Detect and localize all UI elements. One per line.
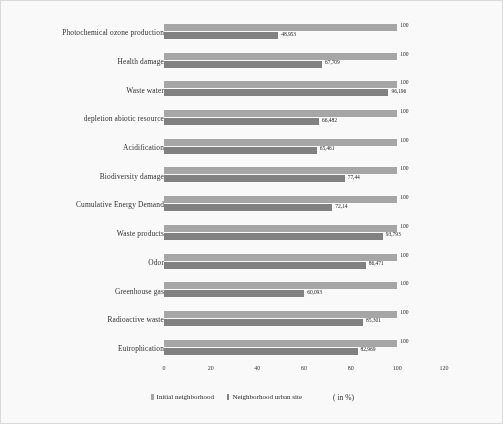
category-label: Radioactive waste xyxy=(4,317,164,324)
category-label: Health damage xyxy=(4,58,164,65)
category-label: Biodiversity damage xyxy=(4,173,164,180)
bar-value-initial-neighborhood: 100 xyxy=(400,138,408,144)
bar-value-initial-neighborhood: 100 xyxy=(400,253,408,259)
x-axis-tick: 60 xyxy=(301,365,307,371)
chart-row: Waste products10093,793 xyxy=(1,220,503,249)
bar-initial-neighborhood xyxy=(164,81,397,88)
bar-value-neighborhood-urban-site: 93,793 xyxy=(386,232,401,238)
legend-label-initial-neighborhood: Initial neighborhood xyxy=(157,393,214,401)
bar-value-neighborhood-urban-site: 60,093 xyxy=(307,290,322,296)
bar-group: 10048,953 xyxy=(164,19,444,48)
chart-row: Acidification10065,461 xyxy=(1,134,503,163)
bar-initial-neighborhood xyxy=(164,110,397,117)
category-label: Greenhouse gas xyxy=(4,288,164,295)
bar-neighborhood-urban-site xyxy=(164,89,388,96)
bar-initial-neighborhood xyxy=(164,167,397,174)
bar-group: 10066,482 xyxy=(164,105,444,134)
bar-group: 10086,471 xyxy=(164,249,444,278)
bar-value-neighborhood-urban-site: 48,953 xyxy=(281,32,296,38)
chart-row: Greenhouse gas10060,093 xyxy=(1,277,503,306)
category-label: Cumulative Energy Demand xyxy=(4,202,164,209)
chart-row: Radioactive waste10085,301 xyxy=(1,306,503,335)
bar-value-initial-neighborhood: 100 xyxy=(400,52,408,58)
legend-swatch-initial-neighborhood xyxy=(151,394,154,400)
bar-initial-neighborhood xyxy=(164,254,397,261)
category-label: Odor xyxy=(4,259,164,266)
legend-item-neighborhood-urban-site: Neighborhood urban site xyxy=(227,393,302,401)
bar-value-neighborhood-urban-site: 65,461 xyxy=(320,146,335,152)
bar-value-neighborhood-urban-site: 72,14 xyxy=(335,204,347,210)
bar-neighborhood-urban-site xyxy=(164,262,366,269)
chart-row: Waste water10096,196 xyxy=(1,76,503,105)
chart-row: Photochemical ozone production10048,953 xyxy=(1,19,503,48)
x-axis-tick: 0 xyxy=(163,365,166,371)
legend-swatch-neighborhood-urban-site xyxy=(227,394,230,400)
bar-initial-neighborhood xyxy=(164,225,397,232)
bar-group: 10060,093 xyxy=(164,277,444,306)
bar-value-neighborhood-urban-site: 96,196 xyxy=(391,89,406,95)
chart-row: Odor10086,471 xyxy=(1,249,503,278)
chart-legend: Initial neighborhood Neighborhood urban … xyxy=(1,389,503,405)
bar-initial-neighborhood xyxy=(164,311,397,318)
bar-group: 10096,196 xyxy=(164,76,444,105)
bar-neighborhood-urban-site xyxy=(164,319,363,326)
legend-label-neighborhood-urban-site: Neighborhood urban site xyxy=(232,393,302,401)
bar-neighborhood-urban-site xyxy=(164,348,358,355)
x-axis-tick: 20 xyxy=(208,365,214,371)
bar-neighborhood-urban-site xyxy=(164,32,278,39)
bar-neighborhood-urban-site xyxy=(164,61,322,68)
bar-initial-neighborhood xyxy=(164,139,397,146)
bar-group: 10065,461 xyxy=(164,134,444,163)
bar-group: 10077,44 xyxy=(164,162,444,191)
bar-value-neighborhood-urban-site: 86,471 xyxy=(369,261,384,267)
category-label: Waste water xyxy=(4,87,164,94)
chart-row: Eutrophication10082,969 xyxy=(1,335,503,364)
bar-group: 10093,793 xyxy=(164,220,444,249)
x-axis-tick: 40 xyxy=(254,365,260,371)
bar-neighborhood-urban-site xyxy=(164,290,304,297)
chart-row: Cumulative Energy Demand10072,14 xyxy=(1,191,503,220)
bar-value-initial-neighborhood: 100 xyxy=(400,166,408,172)
bar-initial-neighborhood xyxy=(164,196,397,203)
bar-neighborhood-urban-site xyxy=(164,118,319,125)
category-label: Photochemical ozone production xyxy=(4,30,164,37)
bar-neighborhood-urban-site xyxy=(164,204,332,211)
bar-value-initial-neighborhood: 100 xyxy=(400,281,408,287)
category-label: depletion abiotic resource xyxy=(4,116,164,123)
bar-group: 10085,301 xyxy=(164,306,444,335)
bar-initial-neighborhood xyxy=(164,53,397,60)
bar-value-initial-neighborhood: 100 xyxy=(400,80,408,86)
bar-group: 10072,14 xyxy=(164,191,444,220)
bar-chart: Photochemical ozone production10048,953H… xyxy=(0,0,503,424)
bar-group: 10067,709 xyxy=(164,48,444,77)
bar-value-initial-neighborhood: 100 xyxy=(400,195,408,201)
bar-value-neighborhood-urban-site: 66,482 xyxy=(322,118,337,124)
unit-note: ( in %) xyxy=(333,393,354,402)
bar-initial-neighborhood xyxy=(164,282,397,289)
category-label: Acidification xyxy=(4,144,164,151)
chart-row: Health damage10067,709 xyxy=(1,48,503,77)
x-axis: 020406080100120 xyxy=(164,365,444,379)
bar-group: 10082,969 xyxy=(164,335,444,364)
chart-rows: Photochemical ozone production10048,953H… xyxy=(1,19,503,364)
bar-value-neighborhood-urban-site: 85,301 xyxy=(366,318,381,324)
bar-value-neighborhood-urban-site: 77,44 xyxy=(348,175,360,181)
x-axis-tick: 120 xyxy=(440,365,449,371)
bar-value-neighborhood-urban-site: 67,709 xyxy=(325,60,340,66)
chart-row: depletion abiotic resource10066,482 xyxy=(1,105,503,134)
x-axis-tick: 80 xyxy=(348,365,354,371)
bar-value-neighborhood-urban-site: 82,969 xyxy=(361,347,376,353)
category-label: Eutrophication xyxy=(4,345,164,352)
bar-neighborhood-urban-site xyxy=(164,233,383,240)
bar-value-initial-neighborhood: 100 xyxy=(400,339,408,345)
x-axis-tick: 100 xyxy=(393,365,402,371)
bar-value-initial-neighborhood: 100 xyxy=(400,310,408,316)
bar-neighborhood-urban-site xyxy=(164,147,317,154)
bar-initial-neighborhood xyxy=(164,24,397,31)
bar-value-initial-neighborhood: 100 xyxy=(400,23,408,29)
bar-value-initial-neighborhood: 100 xyxy=(400,224,408,230)
category-label: Waste products xyxy=(4,230,164,237)
bar-value-initial-neighborhood: 100 xyxy=(400,109,408,115)
legend-item-initial-neighborhood: Initial neighborhood xyxy=(151,393,214,401)
chart-row: Biodiversity damage10077,44 xyxy=(1,162,503,191)
